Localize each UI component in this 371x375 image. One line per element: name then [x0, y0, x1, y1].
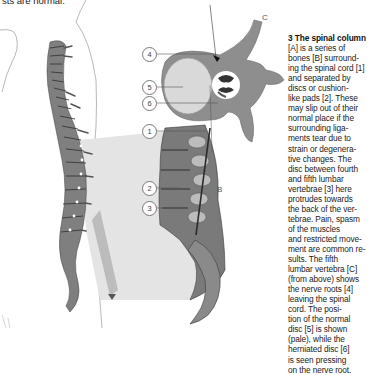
caption-line: and fifth lumbar: [288, 174, 371, 184]
caption-line: strain or degenera-: [288, 144, 371, 154]
callout-1: 1: [142, 124, 157, 139]
caption-line: lumbar vertebra [C]: [288, 264, 371, 274]
caption-line: (from above) shows: [288, 274, 371, 284]
caption-line: ment are common re-: [288, 244, 371, 254]
caption-line: vertebrae [3] here: [288, 184, 371, 194]
caption-heading: 3 The spinal column: [288, 33, 371, 43]
label-b: B: [217, 185, 222, 194]
caption-line: protrudes towards: [288, 194, 371, 204]
caption-line: (pale), while the: [288, 334, 371, 344]
caption-line: disc [5] is shown: [288, 324, 371, 334]
caption-line: tive changes. The: [288, 154, 371, 164]
normal-disc: [164, 58, 212, 114]
caption-line: on the nerve root.: [288, 365, 371, 375]
callout-5: 5: [142, 80, 157, 95]
caption-line: like pads [2]. These: [288, 93, 371, 103]
caption-line: the nerve roots [4]: [288, 284, 371, 294]
callout-2: 2: [142, 181, 157, 196]
caption-line: may slip out of their: [288, 103, 371, 113]
caption-line: tebrae. Pain, spasm: [288, 214, 371, 224]
caption-line: ments tear due to: [288, 133, 371, 143]
callout-6: 6: [142, 96, 157, 111]
label-c: C: [262, 13, 268, 22]
caption-line: the back of the ver-: [288, 204, 371, 214]
caption-line: tion of the normal: [288, 314, 371, 324]
caption-line: herniated disc [6]: [288, 344, 371, 354]
caption-line: and restricted move-: [288, 234, 371, 244]
caption-line: sults. The fifth: [288, 254, 371, 264]
caption-line: of the muscles: [288, 224, 371, 234]
callout-3: 3: [142, 201, 157, 216]
caption-line: bones [B] surround-: [288, 53, 371, 63]
caption-line: discs or cushion-: [288, 83, 371, 93]
caption-line: [A] is a series of: [288, 43, 371, 53]
callout-4: 4: [142, 47, 157, 62]
caption-line: and separated by: [288, 73, 371, 83]
figure-caption: 3 The spinal column [A] is a series of b…: [288, 33, 371, 375]
caption-line: surrounding liga-: [288, 123, 371, 133]
back-outline: [0, 30, 17, 92]
caption-line: normal place if the: [288, 113, 371, 123]
caption-line: leaving the spinal: [288, 294, 371, 304]
caption-line: disc between fourth: [288, 164, 371, 174]
caption-line: cord. The posi-: [288, 304, 371, 314]
caption-line: ing the spinal cord [1]: [288, 63, 371, 73]
caption-line: is seen pressing: [288, 355, 371, 365]
